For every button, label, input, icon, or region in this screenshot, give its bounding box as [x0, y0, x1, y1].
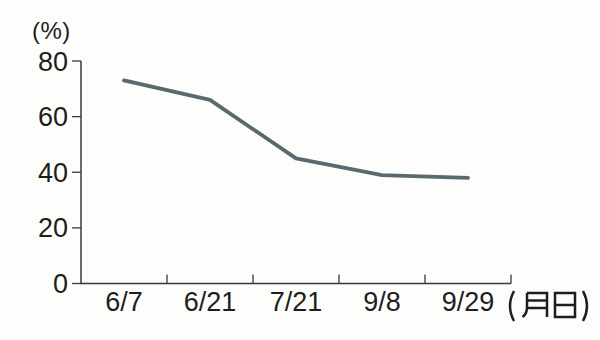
kanji-day-glyph — [555, 293, 575, 317]
y-tick-label: 0 — [53, 269, 68, 299]
x-tick-label: 9/8 — [363, 287, 401, 317]
open-paren-glyph — [510, 291, 514, 321]
y-tick-label: 80 — [38, 47, 68, 77]
line-chart: (%) 0204060806/76/217/219/89/29 — [0, 0, 600, 340]
x-tick-label: 7/21 — [270, 287, 323, 317]
x-tick-label: 9/29 — [442, 287, 495, 317]
data-line — [124, 80, 468, 177]
x-tick-label: 6/21 — [184, 287, 237, 317]
x-axis-unit-label — [502, 288, 596, 326]
y-tick-label: 60 — [38, 102, 68, 132]
x-tick-label: 6/7 — [105, 287, 143, 317]
close-paren-glyph — [583, 291, 587, 321]
y-tick-label: 20 — [38, 213, 68, 243]
y-tick-label: 40 — [38, 158, 68, 188]
kanji-month-glyph — [523, 293, 548, 317]
